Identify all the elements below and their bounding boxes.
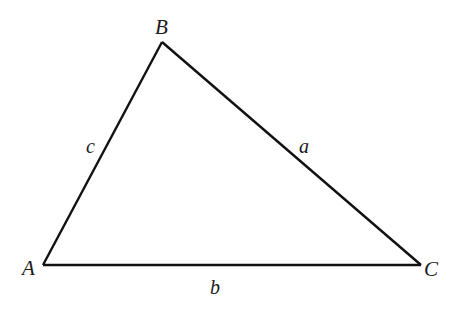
side-label-c: c: [86, 135, 95, 157]
vertex-label-a: A: [20, 256, 35, 280]
background: [0, 0, 463, 316]
side-label-a: a: [299, 135, 309, 157]
triangle-diagram: A B C c a b: [0, 0, 463, 316]
side-label-b: b: [210, 276, 220, 298]
vertex-label-c: C: [424, 257, 439, 281]
vertex-label-b: B: [155, 15, 168, 39]
